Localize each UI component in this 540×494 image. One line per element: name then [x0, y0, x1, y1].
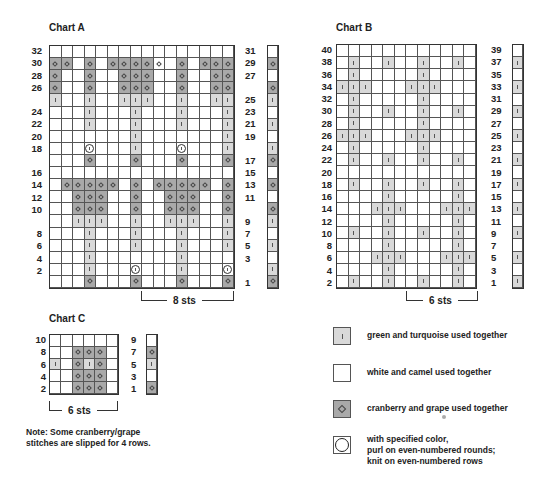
tick-mark-icon [423, 61, 424, 65]
diamond-icon [87, 206, 93, 212]
diamond-icon [167, 206, 173, 212]
cranberry-grape-cell [85, 58, 97, 70]
row-number-label: 15 [491, 191, 502, 203]
tick-mark-icon [89, 231, 90, 235]
green-turquoise-cell [383, 215, 395, 227]
white-camel-cell [337, 239, 349, 251]
chart-b-title: Chart B [336, 22, 372, 33]
tick-mark-icon [423, 146, 424, 150]
cranberry-grape-cell [268, 179, 278, 191]
white-camel-cell [211, 107, 223, 119]
white-camel-cell [165, 276, 177, 288]
white-camel-cell [211, 240, 223, 252]
diamond-icon [270, 279, 276, 285]
diamond-icon [333, 400, 351, 418]
cranberry-grape-cell [131, 70, 143, 82]
note-line-2: stitches are slipped for 4 rows. [26, 438, 151, 449]
note-line-1: Note: Some cranberry/grape [26, 427, 151, 438]
white-camel-cell [464, 276, 476, 288]
white-camel-cell [441, 179, 453, 191]
cranberry-grape-cell [147, 382, 157, 394]
green-turquoise-cell [131, 107, 143, 119]
green-turquoise-cell [453, 227, 465, 239]
purl-circle-cell [85, 143, 97, 155]
tick-mark-icon [377, 255, 378, 259]
white-camel-cell [395, 142, 407, 154]
diamond-icon [64, 182, 70, 188]
tick-mark-icon [181, 110, 182, 114]
white-camel-cell [349, 264, 361, 276]
green-turquoise-cell [513, 154, 523, 166]
white-camel-cell [441, 130, 453, 142]
white-camel-cell [165, 252, 177, 264]
white-camel-cell [430, 215, 442, 227]
tick-mark-icon [400, 255, 401, 259]
white-camel-cell [142, 131, 154, 143]
tick-mark-icon [423, 73, 424, 77]
white-camel-cell [62, 167, 74, 179]
white-camel-cell [360, 215, 372, 227]
tick-mark-icon [388, 243, 389, 247]
tick-mark-icon [458, 182, 459, 186]
green-turquoise-cell [383, 57, 395, 69]
white-camel-cell [418, 252, 430, 264]
white-camel-cell [395, 191, 407, 203]
white-camel-cell [372, 69, 384, 81]
row-number-label: 2 [37, 265, 42, 277]
white-camel-cell [62, 155, 74, 167]
white-camel-cell [464, 227, 476, 239]
diamond-icon [190, 182, 196, 188]
white-camel-cell [61, 347, 72, 359]
white-camel-cell [337, 57, 349, 69]
tick-mark-icon [89, 110, 90, 114]
green-turquoise-cell [383, 252, 395, 264]
white-camel-cell [154, 155, 166, 167]
cranberry-grape-cell [84, 347, 95, 359]
green-turquoise-cell [418, 130, 430, 142]
white-camel-cell [513, 94, 523, 106]
green-turquoise-cell [383, 106, 395, 118]
green-turquoise-cell [119, 94, 131, 106]
white-camel-cell [395, 264, 407, 276]
cranberry-grape-cell [131, 82, 143, 94]
white-camel-cell [165, 131, 177, 143]
white-camel-cell [107, 335, 118, 347]
white-camel-cell [154, 215, 166, 227]
row-number-label: 16 [31, 167, 42, 179]
tick-mark-icon [517, 158, 518, 162]
white-camel-cell [188, 276, 200, 288]
white-camel-cell [464, 239, 476, 251]
white-camel-cell [406, 142, 418, 154]
white-camel-cell [119, 167, 131, 179]
white-camel-cell [73, 228, 85, 240]
green-turquoise-cell [73, 215, 85, 227]
white-camel-cell [441, 106, 453, 118]
green-turquoise-cell [268, 264, 278, 276]
green-turquoise-cell [349, 106, 361, 118]
white-camel-cell [73, 155, 85, 167]
green-turquoise-cell [177, 252, 189, 264]
white-camel-cell [154, 46, 166, 58]
diamond-icon [98, 361, 104, 367]
cranberry-grape-cell [177, 82, 189, 94]
white-camel-cell [372, 106, 384, 118]
green-turquoise-cell [142, 94, 154, 106]
white-camel-cell [395, 179, 407, 191]
white-camel-cell [188, 228, 200, 240]
row-number-label: 20 [321, 167, 332, 179]
white-camel-cell [406, 57, 418, 69]
diamond-icon [75, 206, 81, 212]
white-camel-cell [119, 107, 131, 119]
white-camel-cell [395, 154, 407, 166]
white-camel-cell [360, 106, 372, 118]
tick-mark-icon [388, 158, 389, 162]
white-camel-cell [50, 46, 62, 58]
white-camel-cell [383, 130, 395, 142]
white-camel-cell [268, 70, 278, 82]
tick-mark-icon [458, 61, 459, 65]
tick-mark-icon [89, 98, 90, 102]
white-camel-cell [73, 240, 85, 252]
white-camel-cell [165, 155, 177, 167]
row-number-label: 22 [321, 154, 332, 166]
cranberry-grape-cell [95, 347, 106, 359]
